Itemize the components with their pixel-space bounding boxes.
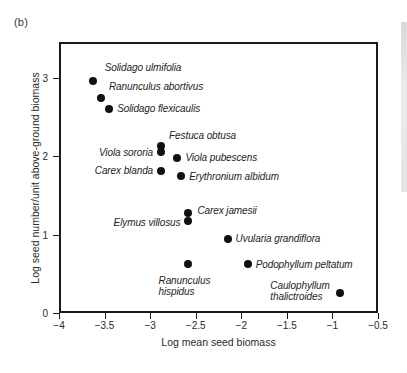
data-point-label: Carex jamesii [197, 205, 256, 217]
y-axis-tick [53, 78, 59, 79]
data-point-label: Ranunculus hispidus [159, 275, 211, 298]
data-point-label: Solidago ulmifolia [105, 62, 182, 74]
data-point [184, 217, 192, 225]
data-point-label: Caulophyllum thalictroides [270, 279, 329, 302]
x-axis-tick [241, 313, 242, 319]
data-point-label: Viola sororia [99, 147, 153, 159]
data-point [89, 77, 97, 85]
panel-label: (b) [14, 16, 28, 28]
y-axis-tick [53, 235, 59, 236]
x-axis-title: Log mean seed biomass [59, 336, 378, 348]
y-axis-tick-label: 2 [42, 151, 48, 162]
data-point-label: Ranunculus abortivus [109, 82, 203, 94]
y-axis-tick-label: 3 [42, 73, 48, 84]
data-point [105, 105, 113, 113]
x-axis-tick [378, 313, 379, 319]
x-axis-tick [150, 313, 151, 319]
x-axis-tick [105, 313, 106, 319]
data-point-label: Podophyllum peltatum [256, 259, 353, 271]
data-point-label: Festuca obtusa [169, 130, 236, 142]
x-axis-tick-label: −2 [236, 320, 247, 331]
x-axis-tick [332, 313, 333, 319]
data-point [184, 260, 192, 268]
x-axis-tick-label: −1.5 [277, 320, 297, 331]
data-point [336, 289, 344, 297]
x-axis-tick-label: −4 [53, 320, 64, 331]
x-axis-tick [287, 313, 288, 319]
data-point [224, 235, 232, 243]
data-point-label: Uvularia grandiflora [236, 233, 321, 245]
data-point-label: Viola pubescens [185, 152, 257, 164]
data-point [157, 167, 165, 175]
scan-edge-artifact [401, 22, 407, 192]
figure-panel-b: (b) Solidago ulmifoliaRanunculus abortiv… [0, 0, 407, 373]
data-point-label: Elymus villosus [114, 218, 181, 230]
x-axis-tick-label: −0.5 [368, 320, 388, 331]
y-axis-tick [53, 156, 59, 157]
y-axis-title: Log seed number/unit above-ground biomas… [29, 38, 41, 318]
data-point-label: Solidago flexicaulis [117, 104, 200, 116]
scatter-plot-area: Solidago ulmifoliaRanunculus abortivusSo… [59, 42, 378, 313]
x-axis-tick [196, 313, 197, 319]
x-axis-tick-label: −2.5 [186, 320, 206, 331]
x-axis-tick-label: −1 [327, 320, 338, 331]
data-point-label: Erythronium albidum [189, 171, 279, 183]
data-point [157, 148, 165, 156]
data-point [173, 154, 181, 162]
data-point [244, 260, 252, 268]
y-axis-tick-label: 0 [42, 308, 48, 319]
x-axis-tick-label: −3.5 [95, 320, 115, 331]
x-axis-tick-label: −3 [144, 320, 155, 331]
y-axis-tick-label: 1 [42, 229, 48, 240]
data-point-label: Carex blanda [95, 165, 153, 177]
x-axis-tick [59, 313, 60, 319]
y-axis-tick [53, 313, 59, 314]
data-point [177, 172, 185, 180]
data-point [184, 209, 192, 217]
data-point [97, 94, 105, 102]
